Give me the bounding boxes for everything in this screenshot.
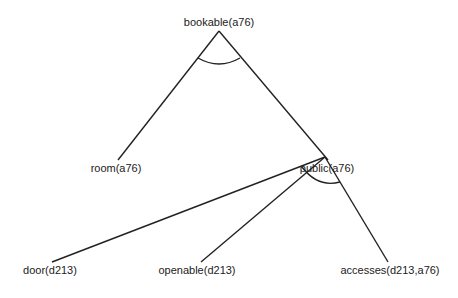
node-room: room(a76) — [91, 162, 142, 174]
edge-bookable-public — [219, 31, 328, 160]
node-openable: openable(d213) — [158, 264, 235, 276]
and-tree-diagram: bookable(a76) room(a76) public(a76) door… — [0, 0, 458, 298]
node-door: door(d213) — [23, 264, 77, 276]
and-arc-bookable — [198, 58, 240, 64]
tree-edges — [0, 0, 458, 298]
node-bookable: bookable(a76) — [184, 16, 254, 28]
edge-bookable-room — [118, 31, 219, 160]
node-public: public(a76) — [300, 162, 354, 174]
node-accesses: accesses(d213,a76) — [340, 264, 439, 276]
